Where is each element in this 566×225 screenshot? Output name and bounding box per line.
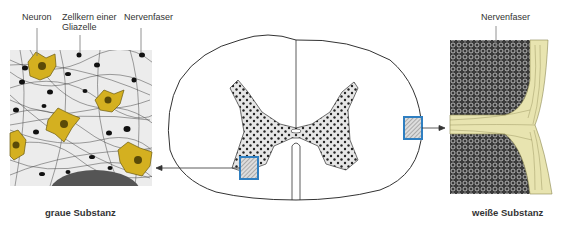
spinal-cord-diagram <box>0 0 566 225</box>
nerve-fiber-label-right: Nervenfaser <box>481 12 530 22</box>
glia-nucleus-label-line1: Zellkern einer <box>62 12 117 22</box>
white-matter-caption: weiße Substanz <box>472 207 543 218</box>
grey-matter-caption: graue Substanz <box>45 207 116 218</box>
arrow-to-white-matter <box>422 126 445 131</box>
white-matter-panel <box>450 40 552 194</box>
spinal-cord-cross-section <box>168 35 422 200</box>
glia-nucleus-label-line2: Gliazelle <box>62 22 117 32</box>
nerve-fiber-label-left: Nervenfaser <box>124 12 173 22</box>
grey-matter-highlight-box <box>240 157 258 179</box>
glia-nucleus-label: Zellkern einer Gliazelle <box>62 12 117 32</box>
neuron-label: Neuron <box>22 12 52 22</box>
cord-outline <box>168 35 422 200</box>
central-canal <box>291 129 301 133</box>
white-matter-highlight-box <box>404 117 422 139</box>
grey-matter-panel <box>10 49 160 214</box>
